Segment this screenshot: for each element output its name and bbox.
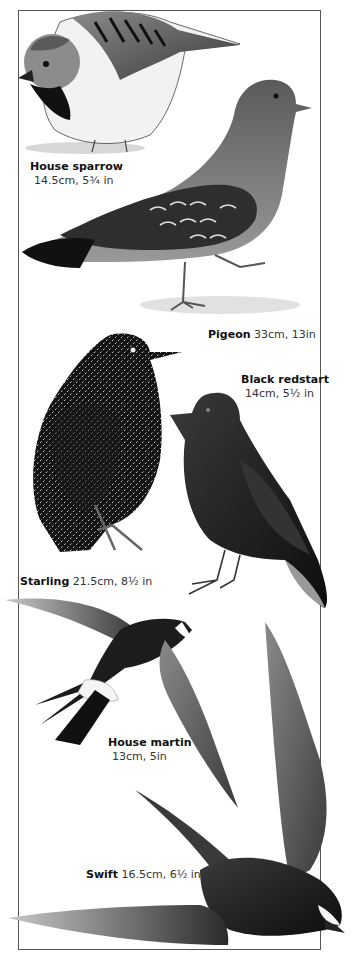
black-redstart-label: Black redstart 14cm, 5½ in (241, 373, 329, 401)
house-sparrow-label: House sparrow 14.5cm, 5¾ in (30, 160, 123, 188)
swift-name: Swift (86, 868, 118, 881)
house-sparrow-name: House sparrow (30, 160, 123, 173)
pigeon-measure: 33cm, 13in (254, 328, 316, 341)
starling-measure: 21.5cm, 8½ in (73, 575, 152, 588)
house-sparrow-measure: 14.5cm, 5¾ in (30, 174, 123, 188)
pigeon-label: Pigeon 33cm, 13in (208, 328, 316, 342)
starling-illustration (33, 334, 182, 552)
house-martin-name: House martin (108, 736, 192, 749)
house-martin-measure: 13cm, 5in (108, 750, 192, 764)
house-martin-illustration (5, 598, 238, 808)
black-redstart-name: Black redstart (241, 373, 329, 386)
starling-label: Starling 21.5cm, 8½ in (20, 575, 152, 589)
house-sparrow-illustration (18, 11, 240, 154)
black-redstart-measure: 14cm, 5½ in (241, 387, 329, 401)
pigeon-name: Pigeon (208, 328, 251, 341)
bird-illustrations (0, 0, 354, 957)
house-martin-label: House martin 13cm, 5in (108, 736, 192, 764)
black-redstart-illustration (170, 393, 327, 608)
starling-name: Starling (20, 575, 69, 588)
swift-measure: 16.5cm, 6½ in (121, 868, 200, 881)
swift-label: Swift 16.5cm, 6½ in (86, 868, 201, 882)
